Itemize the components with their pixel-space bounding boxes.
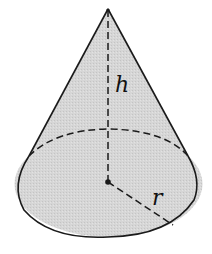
radius-label: r: [152, 185, 164, 210]
cone-diagram: h r: [0, 0, 212, 254]
height-label: h: [115, 72, 129, 97]
apex-point: [106, 8, 109, 11]
center-point: [105, 179, 111, 185]
